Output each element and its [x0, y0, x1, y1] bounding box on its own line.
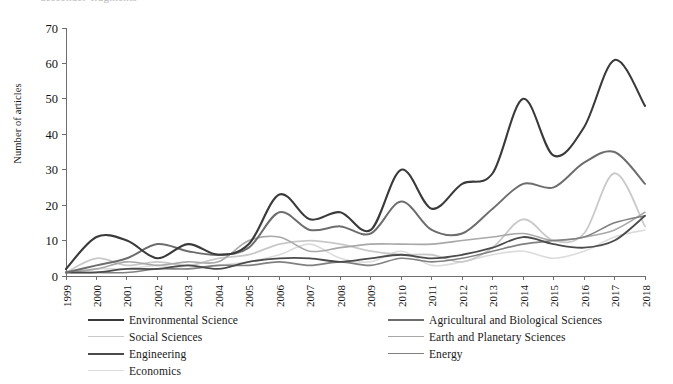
x-tick-label: 1999	[61, 285, 73, 308]
legend-item[interactable]: Agricultural and Biological Sciences	[388, 311, 602, 328]
y-tick-label: 50	[46, 92, 59, 106]
plot-area: Number of articles 010203040506070199920…	[0, 0, 673, 310]
figure-container: descender-fragments Number of articles 0…	[0, 0, 673, 384]
legend-item-label: Environmental Science	[129, 314, 238, 326]
x-tick-label: 2000	[91, 285, 103, 308]
legend-item-label: Energy	[429, 348, 463, 360]
x-tick-label: 2006	[274, 285, 286, 308]
legend-item-label: Agricultural and Biological Sciences	[429, 314, 602, 326]
y-tick-label: 60	[46, 57, 59, 71]
x-tick-label: 2007	[304, 285, 316, 308]
x-tick-label: 2017	[609, 285, 621, 308]
legend-line-swatch	[88, 336, 124, 337]
y-tick-label: 10	[46, 234, 59, 248]
y-tick-label: 20	[46, 199, 59, 213]
series-line	[66, 230, 645, 273]
legend-item-label: Social Sciences	[129, 331, 202, 343]
x-tick-label: 2010	[396, 285, 408, 308]
legend-line-swatch	[388, 319, 424, 321]
x-tick-label: 2008	[335, 285, 347, 308]
legend-line-swatch	[88, 319, 124, 321]
legend-item[interactable]: Social Sciences	[88, 328, 238, 345]
x-tick-label: 2001	[121, 285, 133, 307]
y-tick-label: 30	[46, 163, 59, 177]
series-line	[66, 151, 645, 272]
chart-legend: Environmental ScienceSocial SciencesEngi…	[88, 311, 668, 381]
x-tick-label: 2003	[182, 285, 194, 308]
x-tick-label: 2011	[426, 285, 438, 307]
legend-line-swatch	[88, 353, 124, 355]
x-tick-label: 2015	[548, 285, 560, 308]
x-tick-label: 2013	[487, 285, 499, 308]
legend-item[interactable]: Environmental Science	[88, 311, 238, 328]
x-tick-label: 2014	[518, 285, 530, 308]
legend-item[interactable]: Economics	[88, 362, 238, 379]
y-axis-title: Number of articles	[12, 64, 23, 184]
x-tick-label: 2016	[579, 285, 591, 308]
y-tick-label: 40	[46, 128, 59, 142]
line-chart: 0102030405060701999200020012002200320042…	[0, 0, 673, 310]
x-tick-label: 2005	[243, 285, 255, 308]
x-tick-label: 2018	[640, 285, 652, 308]
y-tick-label: 70	[46, 22, 59, 36]
legend-column-right: Agricultural and Biological SciencesEart…	[388, 311, 602, 362]
legend-line-swatch	[388, 336, 424, 337]
legend-item[interactable]: Earth and Planetary Sciences	[388, 328, 602, 345]
legend-item[interactable]: Energy	[388, 345, 602, 362]
series-line	[66, 60, 645, 269]
x-tick-label: 2004	[213, 285, 225, 308]
x-tick-label: 2009	[365, 285, 377, 308]
y-tick-label: 0	[52, 270, 58, 284]
x-tick-label: 2012	[457, 285, 469, 307]
legend-item-label: Earth and Planetary Sciences	[429, 331, 566, 343]
legend-item-label: Economics	[129, 365, 181, 377]
x-tick-label: 2002	[152, 285, 164, 307]
legend-item-label: Engineering	[129, 348, 186, 360]
legend-line-swatch	[388, 353, 424, 354]
legend-line-swatch	[88, 370, 124, 371]
legend-column-left: Environmental ScienceSocial SciencesEngi…	[88, 311, 238, 379]
legend-item[interactable]: Engineering	[88, 345, 238, 362]
